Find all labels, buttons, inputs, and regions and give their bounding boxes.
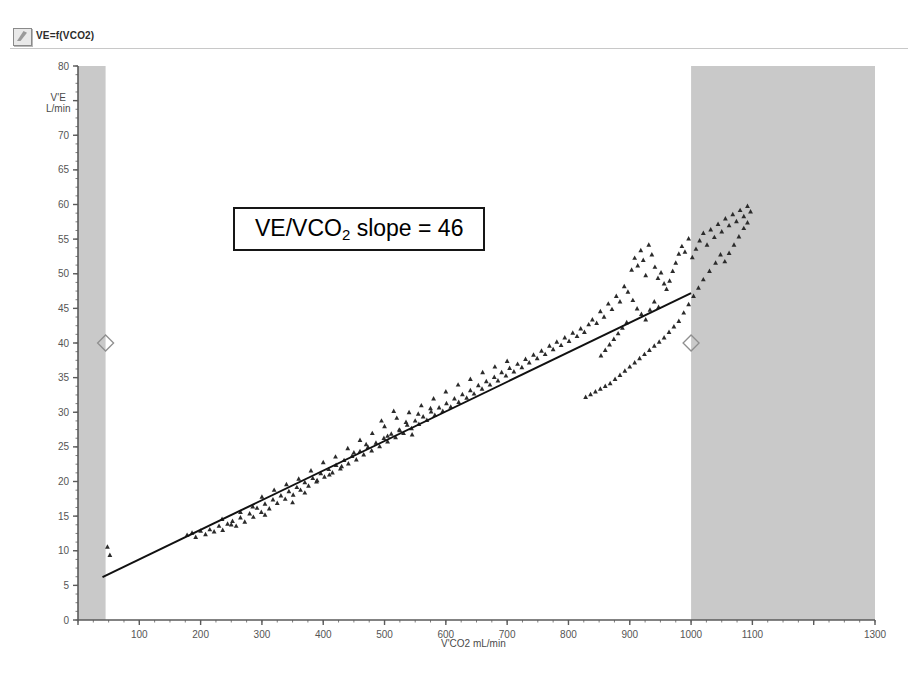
scatter-point bbox=[271, 497, 276, 501]
scatter-point bbox=[652, 343, 657, 347]
scatter-point bbox=[217, 523, 222, 527]
scatter-point bbox=[554, 339, 559, 343]
scatter-point bbox=[562, 335, 567, 339]
scatter-point bbox=[641, 258, 646, 262]
scatter-point bbox=[456, 382, 461, 386]
scatter-point bbox=[484, 379, 489, 383]
scatter-point bbox=[452, 396, 457, 400]
y-tick-label: 65 bbox=[58, 164, 70, 175]
scatter-point bbox=[321, 460, 326, 464]
y-axis-title-line1: V'E bbox=[46, 92, 70, 103]
scatter-point bbox=[523, 357, 528, 361]
scatter-point bbox=[379, 418, 384, 422]
x-tick-label: 200 bbox=[192, 629, 209, 640]
scatter-point bbox=[428, 406, 433, 410]
scatter-point bbox=[263, 501, 268, 505]
scatter-point bbox=[647, 348, 652, 352]
scatter-point bbox=[649, 252, 654, 256]
scatter-point bbox=[670, 269, 675, 273]
scatter-point bbox=[499, 370, 504, 374]
scatter-point bbox=[410, 432, 415, 436]
scatter-point bbox=[667, 278, 672, 282]
scatter-point bbox=[404, 420, 409, 424]
scatter-point bbox=[567, 339, 572, 343]
y-axis-title-line2: L/min bbox=[46, 103, 70, 114]
y-axis-title: V'E L/min bbox=[46, 92, 70, 114]
regression-line-group bbox=[103, 293, 692, 577]
scatter-point bbox=[267, 506, 272, 510]
scatter-point bbox=[642, 352, 647, 356]
scatter-point bbox=[627, 364, 632, 368]
scatter-point bbox=[354, 457, 359, 461]
scatter-point bbox=[643, 317, 648, 321]
scatter-point bbox=[594, 321, 599, 325]
scatter-point bbox=[505, 359, 510, 363]
scatter-point bbox=[515, 361, 520, 365]
scatter-point bbox=[220, 528, 225, 532]
scatter-point bbox=[643, 273, 648, 277]
scatter-point bbox=[283, 496, 288, 500]
scatter-point bbox=[622, 368, 627, 372]
scatter-point bbox=[444, 401, 449, 405]
scatter-point bbox=[464, 395, 469, 399]
scatter-point bbox=[419, 403, 424, 407]
scatter-point bbox=[657, 339, 662, 343]
scatter-point bbox=[607, 342, 612, 346]
y-tick-label: 20 bbox=[58, 476, 70, 487]
scatter-point bbox=[284, 482, 289, 486]
scatter-point bbox=[611, 336, 616, 340]
plot-canvas: 0510152025303540455055606570801002003004… bbox=[0, 0, 920, 677]
x-tick-label: 900 bbox=[621, 629, 638, 640]
scatter-point bbox=[260, 494, 265, 498]
scatter-point bbox=[638, 248, 643, 252]
y-tick-label: 70 bbox=[58, 130, 70, 141]
y-tick-label: 60 bbox=[58, 199, 70, 210]
scatter-point bbox=[570, 330, 575, 334]
scatter-point bbox=[673, 260, 678, 264]
x-tick-label: 500 bbox=[376, 629, 393, 640]
scatter-point bbox=[686, 302, 691, 306]
scatter-point bbox=[207, 527, 212, 531]
x-tick-label: 1300 bbox=[864, 629, 887, 640]
slope-annotation-box: VE/VCO2 slope = 46 bbox=[233, 207, 485, 251]
scatter-point bbox=[629, 267, 634, 271]
scatter-points-group bbox=[105, 203, 753, 556]
scatter-point bbox=[606, 301, 611, 305]
x-tick-label: 800 bbox=[560, 629, 577, 640]
scatter-point bbox=[456, 399, 461, 403]
scatter-point bbox=[603, 348, 608, 352]
scatter-point bbox=[578, 326, 583, 330]
right-exclusion-band bbox=[691, 66, 875, 620]
scatter-point bbox=[345, 446, 350, 450]
x-tick-label: 100 bbox=[131, 629, 148, 640]
scatter-point bbox=[635, 306, 640, 310]
scatter-point bbox=[632, 360, 637, 364]
scatter-point bbox=[468, 377, 473, 381]
scatter-point bbox=[559, 343, 564, 347]
y-tick-label: 50 bbox=[58, 268, 70, 279]
scatter-point bbox=[437, 405, 442, 409]
x-tick-label: 1100 bbox=[742, 629, 764, 640]
scatter-point bbox=[646, 242, 651, 246]
scatter-point bbox=[630, 298, 635, 302]
scatter-point bbox=[272, 487, 277, 491]
scatter-point bbox=[602, 314, 607, 318]
scatter-point bbox=[637, 356, 642, 360]
scatter-point bbox=[613, 377, 618, 381]
scatter-point bbox=[583, 395, 588, 399]
scatter-point bbox=[610, 307, 615, 311]
scatter-point bbox=[683, 249, 688, 253]
scatter-point bbox=[286, 489, 291, 493]
scatter-point bbox=[391, 408, 396, 412]
range-handle-group bbox=[98, 335, 699, 351]
scatter-point bbox=[618, 372, 623, 376]
scatter-point bbox=[302, 490, 307, 494]
scatter-point bbox=[593, 389, 598, 393]
scatter-point bbox=[107, 553, 112, 557]
scatter-point bbox=[504, 373, 509, 377]
scatter-point bbox=[294, 485, 299, 489]
scatter-point bbox=[370, 431, 375, 435]
slope-annotation-subscript: 2 bbox=[342, 226, 350, 243]
scatter-point bbox=[238, 515, 243, 519]
scatter-point bbox=[679, 244, 684, 248]
